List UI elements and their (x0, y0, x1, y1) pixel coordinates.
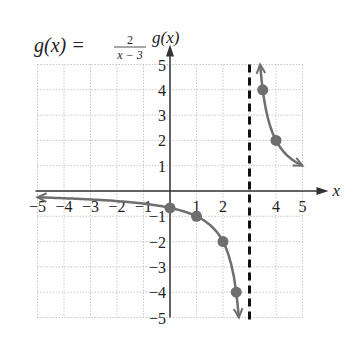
x-tick-label: 2 (219, 198, 227, 215)
x-tick-label: −4 (55, 198, 72, 215)
y-axis-label: g(x) (152, 28, 180, 47)
function-graph: xg(x)−5−4−3−2−1124554321−1−2−3−4−5g(x) =… (0, 0, 346, 345)
x-tick-label: 5 (299, 198, 307, 215)
data-point (231, 287, 242, 298)
data-point (165, 202, 176, 213)
data-point (271, 135, 282, 146)
y-tick-label: −5 (149, 310, 166, 327)
y-tick-label: 1 (158, 158, 166, 175)
x-axis-label: x (332, 181, 341, 200)
title-numerator: 2 (127, 33, 133, 47)
left-branch-curve (38, 197, 239, 317)
data-point (218, 236, 229, 247)
y-tick-label: 3 (158, 107, 166, 124)
y-tick-label: −1 (149, 208, 166, 225)
x-axis-arrow-icon (317, 187, 329, 195)
data-point (191, 211, 202, 222)
chart: xg(x)−5−4−3−2−1124554321−1−2−3−4−5g(x) =… (0, 0, 346, 345)
title-denominator: x − 3 (116, 48, 142, 62)
y-tick-label: 5 (158, 57, 166, 74)
y-tick-label: −3 (149, 259, 166, 276)
y-tick-label: 4 (158, 82, 166, 99)
y-tick-label: −2 (149, 234, 166, 251)
x-tick-label: 4 (272, 198, 280, 215)
data-point (257, 84, 268, 95)
y-tick-label: −4 (149, 284, 166, 301)
y-tick-label: 2 (158, 132, 166, 149)
title-lhs: g(x) = (34, 34, 85, 57)
